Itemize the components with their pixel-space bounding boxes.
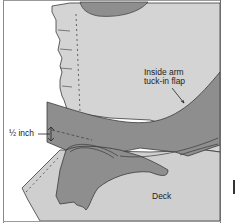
- flap-label: Inside arm tuck-in flap: [144, 68, 185, 86]
- edge-mark: [233, 180, 235, 194]
- frame-left-border: [3, 0, 4, 223]
- upholstery-diagram: Inside arm tuck-in flap ½ inch Deck: [0, 0, 235, 223]
- frame-top-border: [3, 0, 221, 1]
- deck-label: Deck: [152, 192, 171, 201]
- flap-label-line2: tuck-in flap: [144, 77, 185, 86]
- diagram-artwork: [0, 0, 235, 223]
- frame-bottom-border: [3, 221, 221, 222]
- frame-right-border: [220, 0, 221, 223]
- half-inch-label: ½ inch: [9, 129, 34, 138]
